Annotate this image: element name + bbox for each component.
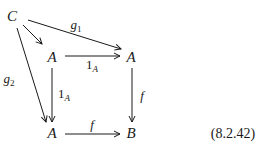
- arrow-g2: [17, 28, 46, 122]
- node-a-top-left: A: [47, 50, 56, 65]
- label-g1-sub: 1: [77, 24, 82, 34]
- arrow-c-to-a-top-left: [23, 25, 42, 44]
- label-f-horizontal: f: [90, 118, 94, 131]
- label-identity-h-sub: A: [93, 64, 99, 74]
- label-identity-vertical: 1A: [58, 87, 70, 103]
- label-identity-v-sub: A: [65, 93, 71, 103]
- node-a-bottom-left: A: [47, 126, 56, 141]
- node-a-top-right: A: [126, 50, 135, 65]
- label-identity-horizontal: 1A: [86, 58, 98, 74]
- node-c: C: [7, 9, 17, 24]
- label-g1: g1: [71, 18, 82, 34]
- label-g2: g2: [4, 72, 15, 88]
- label-f-v-base: f: [140, 88, 144, 103]
- equation-number: (8.2.42): [211, 127, 255, 141]
- label-g2-sub: 2: [10, 78, 15, 88]
- node-b: B: [126, 126, 135, 141]
- commutative-diagram: C A A A B g1 g2 1A 1A f f (8.2.42): [0, 0, 277, 149]
- label-f-vertical: f: [140, 89, 144, 102]
- label-f-h-base: f: [90, 117, 94, 132]
